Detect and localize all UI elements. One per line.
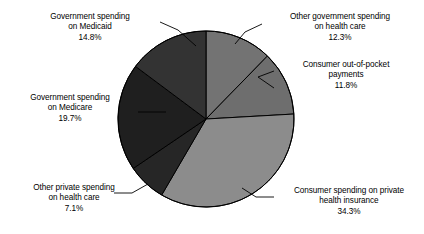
slice-label-line1: Government spending xyxy=(4,93,136,103)
slice-label-consumer-private-insurance: Consumer spending on private health insu… xyxy=(276,186,422,217)
slice-label-value: 14.8% xyxy=(22,33,158,43)
slice-label-line1: Consumer out-of-pocket xyxy=(276,60,416,70)
slice-label-line2: on Medicaid xyxy=(22,22,158,32)
slice-label-line2: on health care xyxy=(264,22,416,32)
slice-label-other-private-spending: Other private spending on health care 7.… xyxy=(4,183,144,214)
pie-chart-figure: Government spending on Medicaid 14.8% Ot… xyxy=(0,0,424,234)
slice-label-government-spending-medicare: Government spending on Medicare 19.7% xyxy=(4,93,136,124)
slice-label-value: 34.3% xyxy=(276,207,422,217)
slice-label-value: 19.7% xyxy=(4,114,136,124)
slice-label-line2: health insurance xyxy=(276,196,422,206)
slice-label-line1: Other government spending xyxy=(264,12,416,22)
slice-label-line2: on Medicare xyxy=(4,103,136,113)
slice-label-line1: Other private spending xyxy=(4,183,144,193)
slice-label-line1: Consumer spending on private xyxy=(276,186,422,196)
slice-label-government-spending-medicaid: Government spending on Medicaid 14.8% xyxy=(22,12,158,43)
pie-slice-group xyxy=(118,31,294,207)
slice-label-value: 11.8% xyxy=(276,81,416,91)
slice-label-value: 12.3% xyxy=(264,33,416,43)
slice-label-line2: payments xyxy=(276,70,416,80)
slice-label-value: 7.1% xyxy=(4,204,144,214)
slice-label-line2: on health care xyxy=(4,193,144,203)
slice-label-line1: Government spending xyxy=(22,12,158,22)
slice-label-other-government-spending: Other government spending on health care… xyxy=(264,12,416,43)
slice-label-consumer-out-of-pocket: Consumer out-of-pocket payments 11.8% xyxy=(276,60,416,91)
